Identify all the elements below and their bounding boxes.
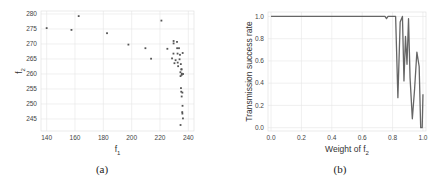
data-point — [71, 29, 73, 31]
data-point — [150, 58, 152, 60]
x-tick-label: 220 — [155, 134, 166, 141]
x-tick-label: 0.6 — [358, 134, 367, 141]
x-tick-label: 0.0 — [267, 134, 276, 141]
y-tick-label: 255 — [26, 85, 37, 92]
y-tick-label: 270 — [26, 40, 37, 47]
figure: 1401601802002202402452502552602652702752… — [0, 0, 446, 185]
y-tick-label: 0.6 — [255, 57, 264, 64]
y-tick-label: 250 — [26, 100, 37, 107]
x-axis-label: Weight of f2 — [325, 144, 369, 156]
data-point — [180, 87, 182, 89]
data-point — [182, 105, 184, 107]
data-point — [177, 53, 179, 55]
y-tick-label: 0.0 — [255, 124, 264, 131]
data-line — [271, 16, 423, 127]
x-tick-label: 240 — [183, 134, 194, 141]
data-point — [78, 15, 80, 17]
x-tick-label: 140 — [41, 134, 52, 141]
caption-a: (a) — [96, 163, 109, 176]
data-point — [173, 43, 175, 45]
data-point — [174, 62, 176, 64]
y-tick-label: 275 — [26, 25, 37, 32]
x-tick-label: 200 — [126, 134, 137, 141]
line-chart-b: 0.00.20.40.60.81.00.00.20.40.60.81.0Weig… — [244, 12, 428, 156]
caption-b: (b) — [334, 163, 347, 176]
scatter-chart-a: 1401601802002202402452502552602652702752… — [14, 10, 194, 155]
data-point — [161, 20, 163, 22]
data-point — [128, 44, 130, 46]
x-tick-label: 1.0 — [418, 134, 427, 141]
data-point — [173, 40, 175, 42]
data-point — [173, 53, 175, 55]
data-point — [176, 41, 178, 43]
data-point — [177, 62, 179, 64]
x-tick-label: 180 — [98, 134, 109, 141]
y-tick-label: 265 — [26, 55, 37, 62]
data-point — [106, 32, 108, 34]
x-axis-label: f1 — [115, 144, 121, 156]
y-tick-label: 0.8 — [255, 35, 264, 42]
data-point — [181, 96, 183, 98]
data-point — [182, 52, 184, 54]
data-point — [171, 58, 173, 60]
y-tick-label: 0.2 — [255, 102, 264, 109]
y-axis-label: f2 — [14, 67, 26, 73]
data-point — [175, 59, 177, 61]
data-point — [178, 47, 180, 49]
data-point — [180, 63, 182, 65]
data-point — [166, 48, 168, 50]
y-tick-label: 1.0 — [255, 13, 264, 20]
data-point — [46, 27, 48, 29]
data-point — [179, 54, 181, 56]
data-point — [181, 92, 183, 94]
y-axis-label: Transmission success rate — [244, 21, 254, 122]
data-point — [182, 73, 184, 75]
data-point — [177, 65, 179, 67]
data-point — [181, 68, 183, 70]
data-point — [181, 113, 183, 115]
data-point — [176, 47, 178, 49]
y-tick-label: 245 — [26, 115, 37, 122]
x-tick-label: 160 — [70, 134, 81, 141]
data-point — [145, 47, 147, 49]
x-tick-label: 0.2 — [297, 134, 306, 141]
data-point — [182, 118, 184, 120]
x-tick-label: 0.8 — [388, 134, 397, 141]
data-point — [180, 124, 182, 126]
x-tick-label: 0.4 — [327, 134, 336, 141]
data-point — [179, 58, 181, 60]
y-tick-label: 260 — [26, 70, 37, 77]
y-tick-label: 280 — [26, 10, 37, 17]
y-tick-label: 0.4 — [255, 79, 264, 86]
